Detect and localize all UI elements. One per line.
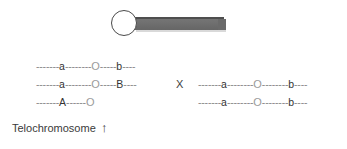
chromosome-dash-run: ------- [198,96,221,108]
chromosome-dash-run: ------- [36,96,59,108]
telochromosome-label: Telochromosome [12,122,96,134]
centromere-circle-icon [111,10,137,36]
chromosome-dash-run: ------- [36,78,59,90]
chromosome-dash-run: ----- [100,60,116,72]
genotype-row-left-2: -------a--------O-----B---- [36,76,137,92]
genotype-cross-area: -------a--------O-----b---- -------a----… [0,58,347,120]
chromosome-dash-run: -------- [65,78,91,90]
cross-symbol: X [176,76,183,92]
chromosome-dash-run: ------- [36,60,59,72]
up-arrow-icon: ↑ [101,120,108,136]
genotype-row-left-1: -------a--------O-----b---- [36,58,135,74]
chromosome-dash-run: ---- [294,96,307,108]
chromosome-dash-run: ---- [123,78,136,90]
centromere-o-glyph: O [253,96,262,108]
genotype-row-right-1: -------a--------O--------b---- [198,76,307,92]
chromosome-dash-run: ----- [100,78,116,90]
chromosome-dash-run: ------- [198,78,221,90]
genotype-row-left-3: -------A------O [36,94,94,110]
chromosome-dash-run: -------- [262,78,288,90]
centromere-o-glyph: O [91,60,100,72]
chromosome-arm-tip [218,19,226,30]
genotype-row-right-2: -------a--------O--------b---- [198,94,307,110]
chromosome-dash-run: ---- [122,60,135,72]
chromosome-diagram [0,0,347,52]
centromere-o-glyph: O [253,78,262,90]
chromosome-dash-run: ------ [66,96,86,108]
centromere-o-glyph: O [91,78,100,90]
chromosome-dash-run: -------- [65,60,91,72]
chromosome-dash-run: -------- [227,78,253,90]
centromere-o-glyph: O [86,96,95,108]
chromosome-dash-run: -------- [227,96,253,108]
chromosome-arm-shadow [136,30,226,32]
chromosome-dash-run: ---- [294,78,307,90]
chromosome-dash-run: -------- [262,96,288,108]
chromosome-arm-bar [134,17,224,30]
